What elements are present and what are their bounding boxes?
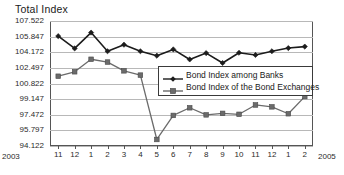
data-point-marker-square [138, 73, 143, 78]
legend-diamond-icon [162, 70, 184, 80]
data-point-marker-square [187, 105, 192, 110]
data-point-marker-diamond [253, 52, 258, 57]
data-point-marker-diamond [286, 45, 291, 50]
data-point-marker-square [155, 137, 160, 142]
legend-item-label: Bond Index of the Bond Exchanges [186, 82, 319, 92]
legend-item[interactable]: Bond Index of the Bond Exchanges [162, 81, 308, 93]
data-point-marker-square [253, 103, 258, 108]
data-point-marker-diamond [138, 49, 143, 54]
data-point-marker-square [270, 105, 275, 110]
data-point-marker-square [89, 57, 94, 62]
data-point-marker-square [56, 74, 61, 79]
data-point-marker-square [105, 60, 110, 65]
data-point-marker-square [204, 113, 209, 118]
chart-legend: Bond Index among BanksBond Index of the … [158, 66, 313, 96]
data-point-marker-square [72, 69, 77, 74]
legend-item-label: Bond Index among Banks [186, 70, 283, 80]
data-point-marker-diamond [302, 44, 307, 49]
legend-square-icon [162, 82, 184, 92]
data-point-marker-square [286, 111, 291, 116]
data-point-marker-square [171, 113, 176, 118]
data-point-marker-square [237, 112, 242, 117]
chart-container: Total Index 107.522105.847104.172102.497… [0, 0, 344, 175]
data-point-marker-square [220, 111, 225, 116]
data-point-marker-diamond [121, 42, 126, 47]
data-point-marker-diamond [269, 49, 274, 54]
data-point-marker-diamond [154, 53, 159, 58]
legend-item[interactable]: Bond Index among Banks [162, 69, 308, 81]
data-point-marker-square [122, 69, 127, 74]
